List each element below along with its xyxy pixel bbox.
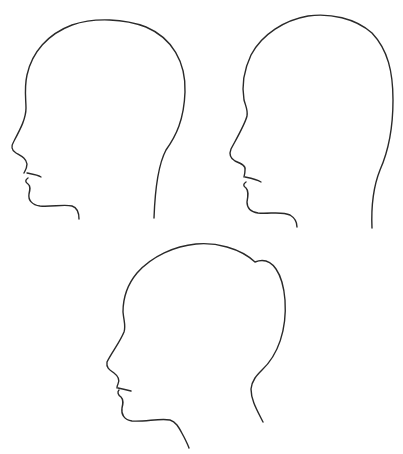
lower-lip-chin-jaw [244, 182, 297, 227]
lower-lip-chin-jaw [118, 390, 189, 448]
head-profile-top-right [230, 15, 393, 228]
head-profile-top-left [12, 20, 185, 219]
upper-lip [245, 177, 261, 182]
head-profile-bottom-center [107, 244, 285, 448]
head-outline [12, 20, 185, 218]
head-outline [230, 15, 393, 228]
head-profiles-figure [0, 0, 403, 454]
upper-lip [27, 173, 41, 177]
lower-lip-chin-jaw [26, 178, 79, 219]
head-outline [107, 244, 285, 422]
upper-lip [118, 388, 131, 391]
